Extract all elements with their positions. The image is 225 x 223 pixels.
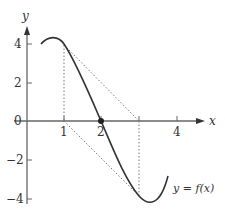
x-axis-label: x — [209, 114, 216, 128]
root-point-marker — [98, 118, 104, 124]
curve-f-of-x — [41, 38, 168, 203]
x-axis-arrow-icon — [196, 118, 205, 124]
y-axis-label: y — [21, 9, 29, 23]
y-tick-label-0: 0 — [14, 114, 22, 128]
secant-upper-dotted — [64, 45, 139, 121]
x-tick-label-1: 1 — [60, 125, 68, 139]
y-tick-label-4: 4 — [14, 37, 22, 51]
curve-label: y = f(x) — [172, 182, 214, 195]
y-tick-label-m2: −2 — [6, 153, 24, 167]
y-tick-label-m4: −4 — [6, 192, 24, 206]
function-graph: y x 4 2 0 −2 −4 1 2 4 y = f(x) — [0, 0, 225, 223]
x-tick-label-4: 4 — [173, 125, 181, 139]
y-tick-label-2: 2 — [14, 76, 22, 90]
y-axis-arrow-icon — [24, 26, 30, 35]
